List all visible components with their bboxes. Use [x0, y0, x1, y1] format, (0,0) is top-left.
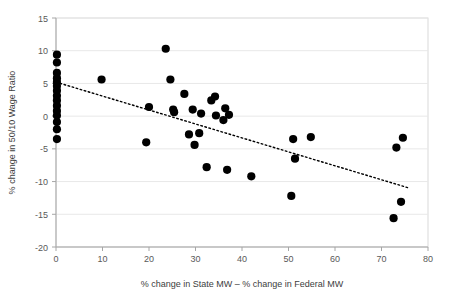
- data-point: [97, 75, 105, 83]
- y-axis-title: % change in 50/10 Wage Ratio: [7, 71, 17, 195]
- data-point: [397, 198, 405, 206]
- data-point: [145, 103, 153, 111]
- data-point: [307, 133, 315, 141]
- data-point: [203, 163, 211, 171]
- data-point: [189, 106, 197, 114]
- y-tick-label: 5: [43, 79, 48, 89]
- y-tick-label: -5: [40, 144, 48, 154]
- data-point: [170, 108, 178, 116]
- data-point: [197, 109, 205, 117]
- data-point: [53, 118, 61, 126]
- y-tick-label: -20: [35, 243, 48, 253]
- x-tick-label: 10: [97, 254, 107, 264]
- y-tick-label: -15: [35, 210, 48, 220]
- data-point: [142, 138, 150, 146]
- data-point: [185, 130, 193, 138]
- x-tick-label: 0: [53, 254, 58, 264]
- data-point: [392, 143, 400, 151]
- data-point: [289, 135, 297, 143]
- data-point: [287, 192, 295, 200]
- x-tick-label: 80: [423, 254, 433, 264]
- data-point: [53, 135, 61, 143]
- data-point: [53, 58, 61, 66]
- x-tick-label: 60: [330, 254, 340, 264]
- plot-area: -20-15-10-505101501020304050607080% chan…: [7, 14, 433, 290]
- data-point: [211, 92, 219, 100]
- data-point: [212, 111, 220, 119]
- plot-border: [56, 18, 428, 247]
- data-point: [225, 111, 233, 119]
- x-tick-label: 50: [283, 254, 293, 264]
- y-tick-label: 10: [38, 46, 48, 56]
- data-point: [53, 51, 61, 59]
- data-point: [180, 90, 188, 98]
- data-point: [195, 129, 203, 137]
- y-tick-label: -10: [35, 177, 48, 187]
- y-tick-label: 15: [38, 14, 48, 24]
- data-point: [389, 214, 397, 222]
- x-tick-label: 70: [376, 254, 386, 264]
- data-point: [166, 75, 174, 83]
- y-tick-label: 0: [43, 112, 48, 122]
- data-point: [247, 172, 255, 180]
- data-point: [53, 125, 61, 133]
- scatter-chart: -20-15-10-505101501020304050607080% chan…: [0, 0, 452, 306]
- data-point: [162, 45, 170, 53]
- data-point: [190, 141, 198, 149]
- chart-canvas: -20-15-10-505101501020304050607080% chan…: [0, 0, 452, 306]
- data-point: [223, 166, 231, 174]
- data-point: [291, 155, 299, 163]
- x-tick-label: 20: [144, 254, 154, 264]
- data-point: [399, 134, 407, 142]
- x-tick-label: 30: [190, 254, 200, 264]
- x-axis-title: % change in State MW – % change in Feder…: [141, 279, 344, 289]
- x-tick-label: 40: [237, 254, 247, 264]
